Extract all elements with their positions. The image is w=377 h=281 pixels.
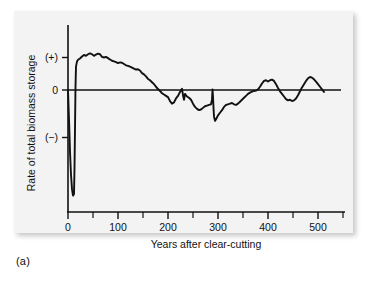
x-tick-label-200: 200 [159,221,177,233]
y-axis-ticks [62,58,68,138]
x-tick-label-500: 500 [309,221,327,233]
y-tick-label-plus: (+) [45,51,58,63]
y-tick-label-zero: 0 [52,84,58,96]
x-tick-label-300: 300 [209,221,227,233]
x-tick-label-400: 400 [259,221,277,233]
figure-caption: (a) [16,255,30,267]
biomass-rate-series-line [68,53,324,195]
figure-container: (+) 0 (−) Rate of total biomass storage … [0,0,377,281]
x-tick-label-100: 100 [109,221,127,233]
y-axis-title: Rate of total biomass storage [25,55,37,192]
x-axis-title: Years after clear-cutting [151,238,262,250]
y-tick-label-minus: (−) [45,131,58,143]
biomass-storage-line-chart: (+) 0 (−) Rate of total biomass storage … [0,0,377,281]
x-tick-label-0: 0 [65,221,71,233]
